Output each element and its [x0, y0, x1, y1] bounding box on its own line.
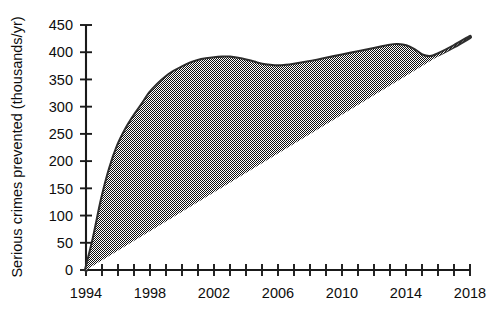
y-axis: 050100150200250300350400450 [49, 17, 92, 278]
x-tick-label: 2010 [326, 285, 358, 301]
data-series-group [0, 0, 503, 319]
x-tick-label: 1998 [134, 285, 166, 301]
y-tick-label: 50 [57, 235, 73, 251]
y-axis-tick-labels: 050100150200250300350400450 [49, 17, 73, 278]
y-tick-label: 0 [65, 262, 73, 278]
chart-canvas: 050100150200250300350400450 199419982002… [0, 0, 503, 319]
y-tick-label: 150 [49, 181, 73, 197]
y-tick-label: 400 [49, 44, 73, 60]
chart-figure: 050100150200250300350400450 199419982002… [0, 0, 503, 319]
y-axis-title: Serious crimes prevented (thousands/yr) [9, 16, 25, 277]
x-axis: 1994199820022006201020142018 [70, 264, 486, 301]
y-tick-label: 200 [49, 153, 73, 169]
x-tick-label: 1994 [70, 285, 102, 301]
x-tick-label: 2006 [262, 285, 294, 301]
x-tick-label: 2002 [198, 285, 230, 301]
x-tick-label: 2018 [454, 285, 486, 301]
y-tick-label: 250 [49, 126, 73, 142]
y-tick-label: 300 [49, 99, 73, 115]
y-tick-label: 450 [49, 17, 73, 33]
y-tick-label: 350 [49, 72, 73, 88]
x-tick-label: 2014 [390, 285, 422, 301]
y-tick-label: 100 [49, 208, 73, 224]
x-axis-tick-labels: 1994199820022006201020142018 [70, 285, 486, 301]
series-line-texture [0, 0, 503, 319]
